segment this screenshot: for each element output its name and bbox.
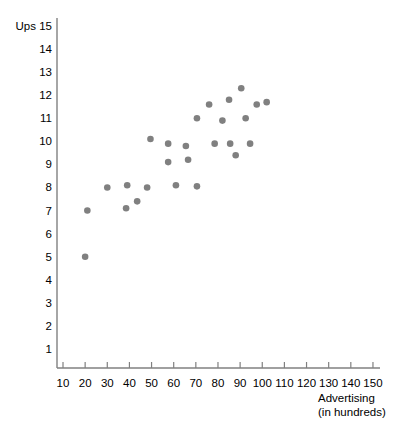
x-tick-label: 150 — [363, 377, 382, 389]
y-tick-label: 11 — [40, 112, 52, 124]
data-point — [134, 198, 141, 205]
data-point — [147, 136, 154, 143]
data-point — [226, 97, 233, 104]
y-tick-label: 3 — [46, 297, 52, 309]
y-tick-label: 4 — [46, 274, 53, 286]
x-tick-label: 20 — [79, 377, 92, 389]
data-point — [165, 140, 172, 147]
data-point — [247, 140, 254, 147]
x-tick-label: 120 — [297, 377, 316, 389]
data-point — [238, 85, 245, 92]
data-point — [232, 152, 239, 159]
x-tick-label: 130 — [319, 377, 338, 389]
data-point — [165, 159, 172, 166]
data-point — [144, 184, 151, 191]
x-tick-label: 80 — [212, 377, 225, 389]
data-point — [227, 140, 234, 147]
data-point — [219, 117, 226, 124]
x-tick-label: 40 — [123, 377, 136, 389]
y-tick-label: 6 — [46, 228, 52, 240]
x-tick-label: 70 — [189, 377, 202, 389]
y-tick-label: 10 — [39, 135, 52, 147]
y-tick-labels: 123456789101112131415 — [39, 20, 52, 355]
y-tick-label: 8 — [46, 181, 52, 193]
data-point — [173, 182, 180, 189]
x-tick-label: 30 — [101, 377, 114, 389]
y-tick-label: 1 — [46, 343, 52, 355]
y-tick-label: 15 — [39, 20, 52, 32]
y-tick-label: 7 — [46, 205, 52, 217]
data-point — [194, 115, 201, 122]
x-axis-title-line2: (in hundreds) — [318, 406, 386, 418]
data-point — [185, 157, 192, 164]
x-tick-label: 90 — [234, 377, 247, 389]
data-point — [84, 207, 91, 214]
y-tick-label: 2 — [46, 320, 52, 332]
scatter-plot-figure: 123456789101112131415 102030405060708090… — [0, 0, 406, 433]
data-point — [123, 205, 130, 212]
data-points-group — [82, 85, 270, 260]
x-tick-label: 10 — [57, 377, 70, 389]
x-tick-label: 110 — [275, 377, 293, 389]
x-tick-marks — [63, 362, 373, 368]
data-point — [253, 101, 260, 108]
x-axis-title-line1: Advertising — [318, 392, 375, 404]
data-point — [263, 99, 270, 106]
y-tick-label: 14 — [39, 43, 52, 55]
x-tick-label: 100 — [253, 377, 272, 389]
y-tick-label: 13 — [39, 66, 52, 78]
data-point — [183, 143, 190, 150]
y-tick-label: 9 — [46, 158, 52, 170]
y-tick-label: 5 — [46, 251, 52, 263]
data-point — [211, 140, 218, 147]
axes-group — [57, 18, 380, 368]
data-point — [242, 115, 249, 122]
x-tick-labels: 102030405060708090100110120130140150 — [57, 377, 383, 389]
data-point — [194, 183, 201, 190]
x-tick-label: 50 — [145, 377, 158, 389]
data-point — [206, 101, 213, 108]
y-tick-label: 12 — [39, 89, 52, 101]
x-tick-label: 60 — [167, 377, 180, 389]
chart-canvas: 123456789101112131415 102030405060708090… — [0, 0, 406, 433]
data-point — [104, 184, 111, 191]
y-axis-title: Ups — [16, 20, 37, 32]
data-point — [82, 253, 89, 260]
data-point — [124, 182, 131, 189]
x-tick-label: 140 — [341, 377, 360, 389]
